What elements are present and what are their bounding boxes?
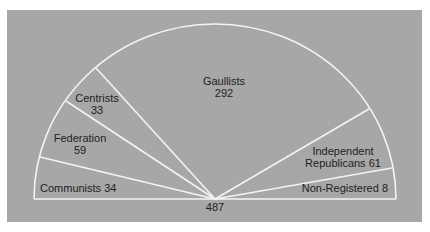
- segment-label-federation: Federation 59: [52, 132, 108, 156]
- total-value: 487: [206, 201, 224, 213]
- segment-label-centrists: Centrists 33: [72, 92, 122, 116]
- chart-figure: Centrists 33 Federation 59 Communists 34…: [0, 0, 430, 232]
- semicircle-chart: [0, 0, 430, 232]
- gaullists-value: 292: [194, 87, 254, 99]
- communists-name: Communists 34: [40, 182, 116, 194]
- federation-value: 59: [52, 144, 108, 156]
- segment-label-independent-republicans: Independent Republicans 61: [300, 145, 386, 169]
- centrists-name: Centrists: [72, 92, 122, 104]
- centrists-value: 33: [72, 104, 122, 116]
- segment-label-communists: Communists 34: [40, 182, 124, 194]
- independent-name-line2: Republicans 61: [300, 157, 386, 169]
- gaullists-name: Gaullists: [194, 75, 254, 87]
- independent-name-line1: Independent: [300, 145, 386, 157]
- segment-label-non-registered: Non-Registered 8: [298, 182, 388, 194]
- total-seats-label: 487: [200, 201, 230, 213]
- nonregistered-name: Non-Registered 8: [302, 182, 388, 194]
- segment-label-gaullists: Gaullists 292: [194, 75, 254, 99]
- federation-name: Federation: [52, 132, 108, 144]
